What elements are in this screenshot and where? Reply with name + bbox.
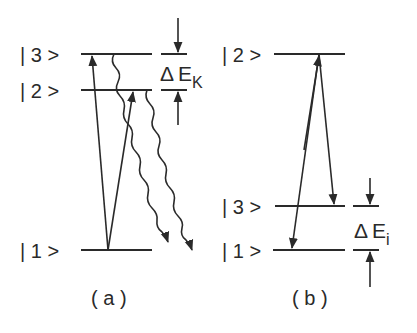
panel-b: | 2 > | 3 > | 1 > ΔEi ( b ) [222,44,390,309]
wavy-decay-2-to-1 [146,90,192,250]
level-label-3: | 3 > [20,44,59,66]
energy-level-diagram: | 3 > | 2 > | 1 > ΔEK ( a ) | 2 > | 3 > … [0,0,417,333]
caption-a: ( a ) [91,287,127,309]
gap-label-ei: ΔEi [354,219,390,248]
caption-b: ( b ) [292,287,328,309]
arrow-2-to-3 [319,54,334,204]
arrow-1-to-2 [108,92,133,250]
arrow-1-to-3 [92,56,108,250]
level-label-2: | 2 > [222,44,261,66]
level-label-1: | 1 > [20,240,59,262]
level-label-2: | 2 > [20,80,59,102]
level-label-3: | 3 > [222,196,261,218]
level-label-1: | 1 > [222,240,261,262]
panel-a: | 3 > | 2 > | 1 > ΔEK ( a ) [20,18,203,309]
arrow-2-to-1 [292,54,319,248]
gap-label-ek: ΔEK [160,62,203,91]
